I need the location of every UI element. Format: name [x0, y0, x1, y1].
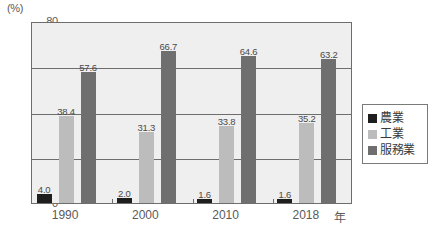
bar: [139, 132, 154, 203]
bar-value-label: 66.7: [154, 41, 183, 52]
legend-item: 工業: [368, 126, 422, 142]
x-axis-unit-label: 年: [334, 208, 346, 225]
x-axis-tick-label: 2010: [201, 208, 251, 222]
bar-value-label: 35.2: [292, 113, 321, 124]
bar-value-label: 1.6: [270, 189, 299, 200]
bar-value-label: 31.3: [132, 122, 161, 133]
legend-item-label: 農業: [380, 112, 403, 124]
legend-swatch-icon: [368, 114, 377, 123]
x-axis-tick-label: 1990: [40, 208, 90, 222]
legend-swatch-icon: [368, 146, 377, 155]
legend-item-label: 服務業: [380, 144, 415, 156]
bar-value-label: 2.0: [110, 188, 139, 199]
bar-value-label: 63.2: [314, 49, 343, 60]
bar-value-label: 64.6: [234, 46, 263, 57]
bar-value-label: 33.8: [212, 116, 241, 127]
x-axis-tick-mark: [273, 199, 274, 203]
bar: [321, 59, 336, 203]
bar-value-label: 38.4: [52, 106, 81, 117]
bar: [299, 123, 314, 203]
legend-swatch-icon: [368, 130, 377, 139]
chart-legend: 農業工業服務業: [362, 104, 428, 164]
x-axis-tick-mark: [112, 199, 113, 203]
legend-item: 農業: [368, 110, 422, 126]
plot-area: 4.038.457.62.031.366.71.633.864.61.635.2…: [31, 22, 352, 204]
bar-value-label: 1.6: [190, 189, 219, 200]
bar-chart: (%) 020406080 4.038.457.62.031.366.71.63…: [0, 0, 435, 240]
legend-item-label: 工業: [380, 128, 403, 140]
bar: [37, 194, 52, 203]
bar: [59, 116, 74, 203]
y-axis-unit-label: (%): [7, 2, 23, 14]
x-axis-tick-label: 2018: [281, 208, 331, 222]
x-axis-tick-label: 2000: [120, 208, 170, 222]
legend-item: 服務業: [368, 142, 422, 158]
bar: [161, 51, 176, 203]
bar: [219, 126, 234, 203]
x-axis-tick-mark: [193, 199, 194, 203]
bar: [81, 72, 96, 203]
bar-value-label: 4.0: [30, 184, 59, 195]
bar-value-label: 57.6: [74, 62, 103, 73]
bar: [241, 56, 256, 203]
